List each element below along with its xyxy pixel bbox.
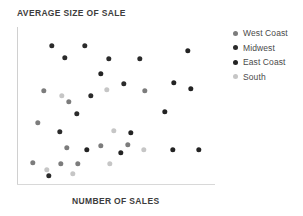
legend: West CoastMidwestEast CoastSouth — [233, 26, 301, 84]
data-point — [141, 147, 146, 152]
legend-marker-icon — [233, 74, 238, 79]
data-point — [125, 142, 130, 147]
x-axis-title: NUMBER OF SALES — [72, 196, 159, 206]
y-axis-line — [17, 27, 18, 185]
data-point — [66, 99, 71, 104]
legend-item-label: East Coast — [243, 57, 286, 67]
data-point — [59, 93, 64, 98]
data-point — [196, 147, 201, 152]
data-point — [41, 88, 46, 93]
data-point — [35, 120, 40, 125]
legend-item[interactable]: Midwest — [233, 41, 301, 55]
data-point — [75, 161, 80, 166]
data-point — [57, 129, 62, 134]
data-point — [162, 109, 167, 114]
legend-item-label: South — [243, 72, 266, 82]
data-point — [46, 173, 51, 178]
x-axis-line — [17, 184, 215, 185]
data-point — [128, 130, 133, 135]
scatter-chart: AVERAGE SIZE OF SALE NUMBER OF SALES Wes… — [0, 0, 303, 216]
data-point — [49, 43, 54, 48]
data-point — [88, 93, 93, 98]
data-point — [142, 88, 147, 93]
legend-marker-icon — [233, 31, 238, 36]
data-point — [74, 111, 79, 116]
legend-marker-icon — [233, 45, 238, 50]
data-point — [185, 48, 190, 53]
data-point — [171, 80, 176, 85]
legend-item[interactable]: East Coast — [233, 55, 301, 69]
data-point — [118, 150, 123, 155]
legend-item-label: Midwest — [243, 43, 275, 53]
plot-area — [17, 27, 215, 185]
legend-marker-icon — [233, 60, 238, 65]
data-point — [64, 145, 69, 150]
data-point — [98, 143, 103, 148]
data-point — [62, 55, 67, 60]
data-point — [121, 81, 126, 86]
data-point — [104, 87, 109, 92]
data-point — [70, 171, 75, 176]
legend-item[interactable]: West Coast — [233, 26, 301, 40]
data-point — [58, 161, 63, 166]
data-point — [82, 43, 87, 48]
data-point — [84, 147, 89, 152]
data-point — [107, 161, 112, 166]
data-point — [170, 147, 175, 152]
data-point — [44, 167, 49, 172]
data-point — [98, 71, 103, 76]
legend-item-label: West Coast — [243, 28, 288, 38]
chart-title: AVERAGE SIZE OF SALE — [17, 8, 126, 18]
data-point — [188, 86, 193, 91]
data-point — [30, 160, 35, 165]
data-point — [106, 56, 111, 61]
data-point — [111, 128, 116, 133]
data-point — [137, 56, 142, 61]
legend-item[interactable]: South — [233, 70, 301, 84]
